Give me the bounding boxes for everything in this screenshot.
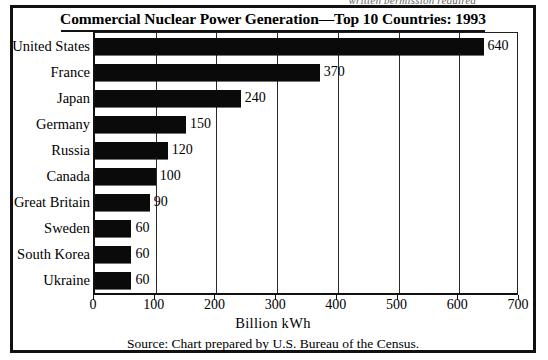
bar-russia [95, 142, 168, 159]
bar-row: 240 [95, 86, 517, 112]
x-axis-tick-labels: 0100200300400500600700 [13, 297, 539, 315]
bar-south-korea [95, 246, 131, 263]
bar-series: 64037024015012010090606060 [95, 33, 517, 293]
bar-value-label: 120 [168, 140, 193, 160]
x-tick-label-300: 300 [265, 297, 286, 313]
chart-title: Commercial Nuclear Power Generation—Top … [13, 10, 533, 28]
category-label-united-states: United States [12, 33, 90, 59]
bar-row: 640 [95, 34, 517, 60]
source-note: Source: Chart prepared by U.S. Bureau of… [13, 336, 533, 352]
bar-france [95, 64, 320, 81]
bar-japan [95, 90, 241, 107]
bar-value-label: 100 [156, 166, 181, 186]
bar-value-label: 90 [150, 192, 168, 212]
category-label-germany: Germany [36, 111, 90, 137]
bar-value-label: 240 [241, 88, 266, 108]
scan-artifact-text: written permission required [0, 0, 548, 4]
category-label-russia: Russia [51, 137, 90, 163]
bar-row: 150 [95, 112, 517, 138]
category-label-france: France [51, 59, 90, 85]
bar-value-label: 60 [131, 218, 149, 238]
bar-sweden [95, 220, 131, 237]
bar-row: 90 [95, 190, 517, 216]
x-tick-label-400: 400 [325, 297, 346, 313]
category-label-sweden: Sweden [44, 215, 90, 241]
x-tick-label-100: 100 [143, 297, 164, 313]
x-tick-label-700: 700 [508, 297, 529, 313]
bar-row: 120 [95, 138, 517, 164]
bar-row: 60 [95, 268, 517, 294]
x-tick-label-0: 0 [90, 297, 97, 313]
bar-canada [95, 168, 156, 185]
x-tick-label-200: 200 [204, 297, 225, 313]
bar-row: 60 [95, 242, 517, 268]
bar-value-label: 60 [131, 244, 149, 264]
bar-row: 370 [95, 60, 517, 86]
category-label-japan: Japan [57, 85, 90, 111]
category-label-great-britain: Great Britain [14, 189, 90, 215]
bar-value-label: 370 [320, 62, 345, 82]
bar-value-label: 640 [484, 36, 509, 56]
bar-ukraine [95, 272, 131, 289]
bar-great-britain [95, 194, 150, 211]
category-label-ukraine: Ukraine [43, 267, 90, 293]
bar-value-label: 60 [131, 270, 149, 290]
bar-united-states [95, 38, 484, 55]
category-label-canada: Canada [47, 163, 90, 189]
x-axis-title: Billion kWh [13, 315, 533, 332]
bar-value-label: 150 [186, 114, 211, 134]
category-label-south-korea: South Korea [17, 241, 90, 267]
category-axis-labels: United StatesFranceJapanGermanyRussiaCan… [13, 32, 93, 295]
bar-row: 100 [95, 164, 517, 190]
chart-figure-box: Commercial Nuclear Power Generation—Top … [10, 5, 536, 353]
plot-area: 64037024015012010090606060 [93, 32, 518, 295]
bar-row: 60 [95, 216, 517, 242]
bar-germany [95, 116, 186, 133]
x-tick-label-500: 500 [386, 297, 407, 313]
x-tick-label-600: 600 [447, 297, 468, 313]
